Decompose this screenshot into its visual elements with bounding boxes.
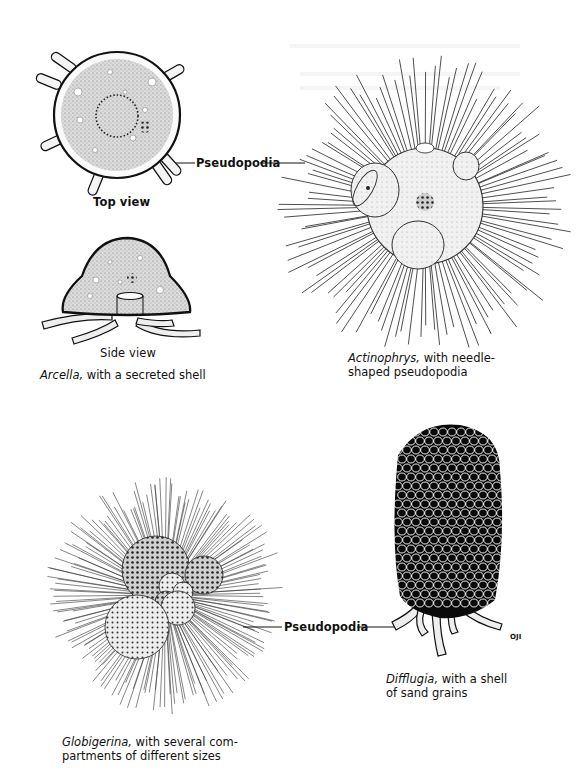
globigerina-caption-text: with several com- xyxy=(132,735,238,749)
arcella-caption-text: with a secreted shell xyxy=(83,368,206,382)
actinophrys-caption-line2: shaped pseudopodia xyxy=(348,365,495,379)
pseudopodia-callout-bottom: Pseudopodia xyxy=(284,620,368,634)
difflugia-caption-text: with a shell xyxy=(438,672,507,686)
actinophrys-caption-text: with needle- xyxy=(420,351,495,365)
difflugia-drawing xyxy=(392,424,505,656)
difflugia-caption-line2: of sand grains xyxy=(386,686,507,700)
globigerina-caption-line2: partments of different sizes xyxy=(62,749,238,763)
artist-signature: OJI xyxy=(510,630,521,644)
globigerina-caption: Globigerina, with several com- partments… xyxy=(62,735,238,763)
arcella-caption: Arcella, with a secreted shell xyxy=(40,368,206,382)
globigerina-caption-species: Globigerina, xyxy=(62,735,132,749)
top-view-label: Top view xyxy=(93,195,150,209)
difflugia-caption-species: Difflugia, xyxy=(386,672,438,686)
arcella-top-view-drawing xyxy=(35,51,185,197)
difflugia-caption: Difflugia, with a shell of sand grains xyxy=(386,672,507,700)
side-view-label: Side view xyxy=(100,346,156,360)
arcella-side-view-drawing xyxy=(42,238,200,344)
figure-illustrations xyxy=(0,0,577,777)
actinophrys-caption-species: Actinophrys, xyxy=(348,351,420,365)
actinophrys-caption: Actinophrys, with needle- shaped pseudop… xyxy=(348,351,495,379)
arcella-caption-species: Arcella, xyxy=(40,368,83,382)
pseudopodia-callout-top: Pseudopodia xyxy=(196,156,280,170)
